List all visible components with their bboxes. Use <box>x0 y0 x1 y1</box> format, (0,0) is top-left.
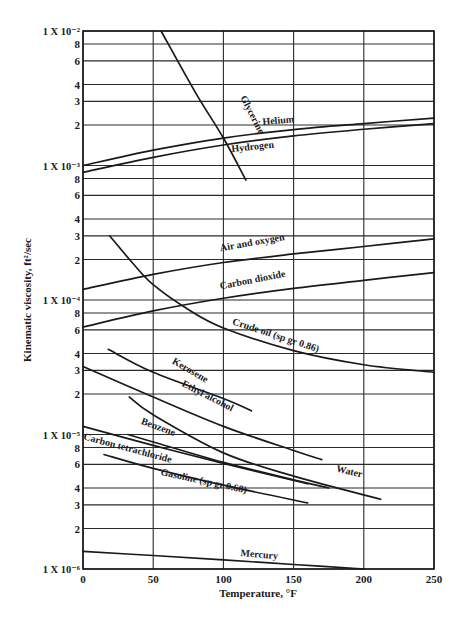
y-tick-label: 1 X 10⁻⁵ <box>43 430 80 441</box>
y-tick-label: 1 X 10⁻⁴ <box>43 295 81 306</box>
y-tick-label: 3 <box>75 364 81 376</box>
series-label-glycerine: Glycerine <box>238 93 267 136</box>
y-tick-label: 2 <box>75 254 81 266</box>
y-tick-label: 8 <box>75 38 81 50</box>
y-tick-label: 3 <box>75 230 81 242</box>
y-axis-ticks: 1 X 10⁻²864321 X 10⁻³864321 X 10⁻⁴864321… <box>43 26 81 575</box>
x-tick-label: 250 <box>426 573 443 585</box>
x-axis-title: Temperature, °F <box>219 587 297 599</box>
series-line-glycerine <box>161 31 246 180</box>
series-label-mercury: Mercury <box>240 547 278 561</box>
y-tick-label: 4 <box>75 348 81 360</box>
y-tick-label: 6 <box>75 324 81 336</box>
y-tick-label: 1 X 10⁻⁶ <box>43 564 80 575</box>
y-tick-label: 6 <box>75 189 81 201</box>
x-tick-label: 150 <box>285 573 302 585</box>
x-tick-label: 100 <box>215 573 232 585</box>
y-tick-label: 3 <box>75 499 81 511</box>
series-label-water: Water <box>335 463 364 480</box>
y-tick-label: 4 <box>75 213 81 225</box>
y-tick-label: 1 X 10⁻³ <box>43 161 80 172</box>
y-tick-label: 2 <box>75 523 81 535</box>
x-axis-ticks: 050100150200250 <box>80 573 443 585</box>
y-tick-label: 4 <box>75 79 81 91</box>
y-tick-label: 1 X 10⁻² <box>43 26 80 37</box>
series-label-air-and-oxygen: Air and oxygen <box>219 231 286 253</box>
y-tick-label: 2 <box>75 388 81 400</box>
y-tick-label: 4 <box>75 482 81 494</box>
y-tick-label: 6 <box>75 55 81 67</box>
x-tick-label: 0 <box>80 573 86 585</box>
x-tick-label: 50 <box>148 573 160 585</box>
y-tick-label: 8 <box>75 442 81 454</box>
viscosity-chart: GlycerineHeliumHydrogenAir and oxygenCar… <box>0 0 464 620</box>
y-tick-label: 6 <box>75 458 81 470</box>
x-tick-label: 200 <box>356 573 373 585</box>
y-tick-label: 8 <box>75 173 81 185</box>
series-label-ethyl-alcohol: Ethyl alcohol <box>180 378 235 414</box>
y-tick-label: 8 <box>75 307 81 319</box>
series-label-hydrogen: Hydrogen <box>231 139 275 154</box>
y-axis-title: Kinematic viscosity, ft²/sec <box>21 238 33 362</box>
series-label-carbon-dioxide: Carbon dioxide <box>219 268 287 292</box>
series-label-gasoline-sp-gr-0-68: Gasoline (sp gr 0.68) <box>160 466 248 496</box>
y-tick-label: 2 <box>75 119 81 131</box>
y-tick-label: 3 <box>75 95 81 107</box>
